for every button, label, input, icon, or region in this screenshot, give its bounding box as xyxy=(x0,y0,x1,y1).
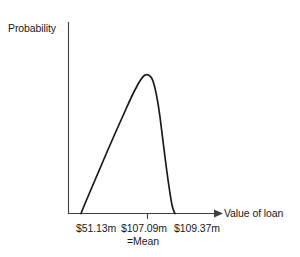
probability-distribution-chart: Probability Value of loan $51.13m $107.0… xyxy=(0,0,300,257)
y-axis-label: Probability xyxy=(8,22,56,34)
x-tick-label-min: $51.13m xyxy=(76,222,116,234)
x-axis-arrow-icon xyxy=(214,210,223,218)
x-tick-label-mean: $107.09m xyxy=(121,222,167,234)
mean-annotation: =Mean xyxy=(127,235,159,247)
x-tick-label-max: $109.37m xyxy=(174,222,220,234)
probability-density-curve xyxy=(81,75,175,214)
x-axis-label: Value of loan xyxy=(224,207,283,219)
